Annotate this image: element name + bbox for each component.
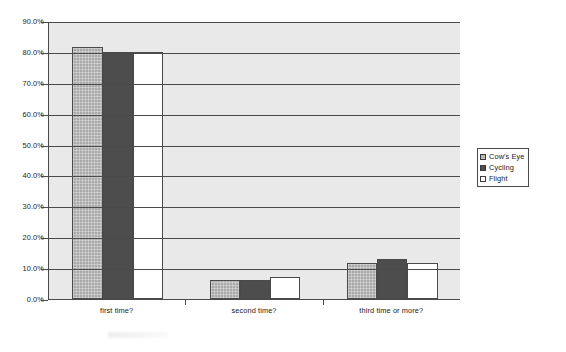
- y-axis-tick-label: 0.0%: [0, 296, 44, 304]
- gridline: [49, 238, 460, 239]
- x-axis-tick-label: first time?: [100, 306, 133, 315]
- y-axis-tick-mark: [41, 22, 48, 23]
- gridline: [49, 269, 460, 270]
- gridline: [49, 146, 460, 147]
- y-axis-tick-mark: [41, 238, 48, 239]
- gridline: [49, 22, 460, 23]
- y-axis-tick-label: 80.0%: [0, 49, 44, 57]
- y-axis-labels: 0.0%10.0%20.0%30.0%40.0%50.0%60.0%70.0%8…: [0, 16, 44, 300]
- bar-cow-s-eye-1: [72, 47, 102, 299]
- x-axis-tick-label: third time or more?: [359, 306, 423, 315]
- y-axis-tick-label: 90.0%: [0, 18, 44, 26]
- legend-swatch-icon: [480, 154, 486, 160]
- bar-cow-s-eye-2: [210, 280, 240, 299]
- gridline: [49, 207, 460, 208]
- gridline: [49, 84, 460, 85]
- y-axis-tick-label: 60.0%: [0, 111, 44, 119]
- legend-item-cow-s-eye[interactable]: Cow's Eye: [480, 151, 525, 162]
- x-axis-labels: first time?second time?third time or mor…: [48, 306, 460, 322]
- scan-artifact: [108, 332, 168, 338]
- legend-label: Cow's Eye: [489, 152, 525, 161]
- y-axis-tick-label: 70.0%: [0, 80, 44, 88]
- bar-chart: 0.0%10.0%20.0%30.0%40.0%50.0%60.0%70.0%8…: [0, 0, 566, 352]
- chart-legend: Cow's EyeCyclingFlight: [477, 148, 529, 187]
- y-axis-tick-label: 40.0%: [0, 172, 44, 180]
- x-axis-tick-mark: [323, 300, 324, 305]
- bar-cycling-2: [240, 280, 270, 299]
- bar-flight-1: [133, 52, 163, 299]
- x-axis-tick-mark: [185, 300, 186, 305]
- y-axis-tick-mark: [41, 300, 48, 301]
- y-axis-tick-mark: [41, 115, 48, 116]
- gridline: [49, 53, 460, 54]
- y-axis-tick-mark: [41, 207, 48, 208]
- gridline: [49, 176, 460, 177]
- legend-label: Flight: [489, 174, 508, 183]
- y-axis-tick-mark: [41, 176, 48, 177]
- y-axis-tick-label: 20.0%: [0, 234, 44, 242]
- bar-cycling-1: [103, 52, 133, 299]
- legend-item-cycling[interactable]: Cycling: [480, 162, 525, 173]
- legend-item-flight[interactable]: Flight: [480, 173, 525, 184]
- bar-flight-2: [270, 277, 300, 299]
- y-axis-tick-label: 50.0%: [0, 142, 44, 150]
- y-axis-tick-label: 30.0%: [0, 203, 44, 211]
- y-axis-tick-label: 10.0%: [0, 265, 44, 273]
- gridline: [49, 115, 460, 116]
- y-axis-tick-mark: [41, 53, 48, 54]
- x-axis-tick-label: second time?: [231, 306, 276, 315]
- y-axis-tick-mark: [41, 84, 48, 85]
- y-axis-tick-mark: [41, 146, 48, 147]
- bar-cycling-3: [377, 259, 407, 299]
- legend-swatch-icon: [480, 176, 486, 182]
- legend-swatch-icon: [480, 165, 486, 171]
- legend-label: Cycling: [489, 163, 514, 172]
- plot-area: [48, 22, 460, 300]
- bars-layer: [49, 22, 460, 299]
- y-axis-tick-mark: [41, 269, 48, 270]
